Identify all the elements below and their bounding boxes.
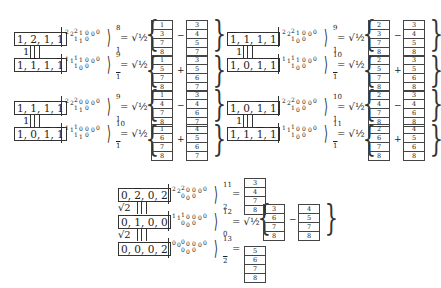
weight-label: 0, 1, 0, 0: [118, 215, 171, 229]
weight-label: 1, 0, 1, 1: [14, 127, 67, 141]
link-coefficient: 1: [236, 115, 242, 126]
equals: =: [232, 188, 240, 199]
young-tableau: 3457: [186, 20, 208, 57]
triple-line-connector: [243, 45, 253, 58]
young-tableau: 1678: [151, 124, 173, 161]
link-coefficient: 1: [23, 46, 29, 57]
young-tableau: 3678: [263, 204, 285, 241]
ket-state: 2220000000⟩ 112: [168, 184, 220, 204]
weight-label: 0, 2, 0, 2: [118, 188, 171, 202]
weight-label: 1, 2, 1, 1: [14, 32, 67, 46]
equals-sqrt-half: = √½: [337, 59, 365, 70]
equals-sqrt-half: = √½: [337, 32, 365, 43]
ket-state: 1111100000⟩ 101: [278, 54, 330, 74]
ket-state: 1111010000⟩ 101: [61, 123, 113, 143]
young-tableau: 3468: [403, 90, 425, 127]
triple-line-connector: [243, 114, 253, 127]
equals-sqrt-half: = √½: [120, 59, 148, 70]
ket-state: 1111000000⟩ 111: [278, 123, 330, 143]
ket-state: 2221110000⟩ 81: [61, 27, 113, 47]
weight-label: 1, 1, 1, 1: [227, 32, 280, 46]
triple-line-connector: [30, 114, 40, 127]
weight-label: 1, 0, 1, 1: [227, 58, 280, 72]
weight-label: 1, 1, 1, 1: [14, 101, 67, 115]
young-tableau: 3467: [186, 90, 208, 127]
link-coefficient: 1: [236, 46, 242, 57]
ket-state: 2221000000⟩ 101: [278, 96, 330, 116]
equals-sqrt-half: = √½: [120, 101, 148, 112]
equals-sqrt-half: = √½: [232, 216, 260, 227]
triple-line-connector: [137, 228, 147, 241]
young-tableau: 4567: [186, 124, 208, 161]
young-tableau: 2678: [368, 124, 390, 161]
link-coefficient: √2: [118, 229, 131, 240]
equals-sqrt-half: = √½: [337, 101, 365, 112]
young-tableau: 3568: [403, 55, 425, 92]
equals-sqrt-half: = √½: [120, 32, 148, 43]
weight-label: 1, 1, 1, 1: [14, 58, 67, 72]
weight-label: 1, 1, 1, 1: [227, 127, 280, 141]
triple-line-connector: [30, 45, 40, 58]
link-coefficient: 1: [23, 115, 29, 126]
ket-state: 1110000000⟩ 120: [168, 211, 220, 231]
young-tableau: 4578: [298, 204, 320, 241]
young-tableau: 3458: [403, 20, 425, 57]
weight-label: 1, 0, 1, 1: [227, 101, 280, 115]
ket-state: 2221010000⟩ 91: [61, 96, 113, 116]
link-coefficient: √2: [118, 202, 131, 213]
young-tableau: 4568: [403, 124, 425, 161]
ket-state: 2221100000⟩ 91: [278, 27, 330, 47]
young-tableau: 3567: [186, 55, 208, 92]
young-tableau: 5678: [244, 246, 266, 283]
ket-state: 1111100000⟩ 91: [61, 54, 113, 74]
equals-sqrt-half: = √½: [120, 128, 148, 139]
ket-state: 0000000000⟩ 132: [168, 238, 220, 258]
equals-sqrt-half: = √½: [337, 128, 365, 139]
triple-line-connector: [137, 201, 147, 214]
weight-label: 0, 0, 0, 2: [118, 242, 171, 256]
equals: =: [232, 243, 240, 254]
